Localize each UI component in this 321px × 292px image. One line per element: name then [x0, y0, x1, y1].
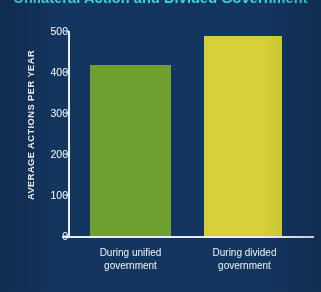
bar-chart: Unilateral Action and Divided Government… [0, 0, 321, 292]
chart-title: Unilateral Action and Divided Government [0, 0, 321, 6]
y-tick-label: 200 [28, 148, 68, 160]
y-tick-label: 300 [28, 107, 68, 119]
x-axis-label-unified-line2: government [74, 260, 187, 273]
bar-during-unified-government [90, 65, 171, 236]
x-axis-line [62, 236, 314, 238]
x-axis-label-divided: During divided government [188, 247, 301, 272]
x-axis-label-divided-line1: During divided [188, 247, 301, 260]
y-axis-line [68, 31, 70, 237]
y-tick-label: 500 [28, 25, 68, 37]
x-axis-label-divided-line2: government [188, 260, 301, 273]
bar-during-divided-government [204, 36, 282, 236]
x-axis-label-unified-line1: During unified [74, 247, 187, 260]
x-axis-label-unified: During unified government [74, 247, 187, 272]
y-tick-label: 100 [28, 189, 68, 201]
y-tick-label: 400 [28, 66, 68, 78]
